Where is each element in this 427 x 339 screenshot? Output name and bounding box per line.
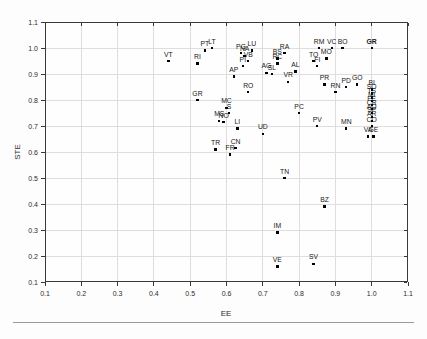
data-point-label: PD [342, 78, 351, 85]
x-tick-bottom [335, 282, 336, 286]
y-tick-label: 0.8 [14, 97, 38, 104]
data-point-marker [334, 91, 336, 93]
y-tick-left [41, 22, 45, 23]
data-point-marker [316, 125, 318, 127]
data-point-marker [345, 86, 347, 88]
data-point-marker [204, 49, 206, 51]
data-point-marker [316, 65, 318, 67]
x-tick-bottom [45, 282, 46, 286]
x-tick-bottom [299, 282, 300, 286]
scatter-figure: STE EE 0.10.20.30.40.50.60.70.80.91.01.1… [0, 0, 427, 339]
y-tick-left [41, 282, 45, 283]
data-point-label: BO [338, 39, 348, 46]
data-point-marker [236, 127, 238, 129]
data-point-marker [276, 265, 278, 267]
x-tick-bottom [371, 282, 372, 286]
x-tick-top [226, 23, 227, 26]
data-point-label: FR [226, 145, 235, 152]
y-tick-right [404, 282, 407, 283]
x-tick-top [262, 23, 263, 26]
data-point-label: VC [327, 39, 336, 46]
data-point-marker [234, 147, 236, 149]
y-tick-label: 0.2 [14, 253, 38, 260]
data-point-marker [211, 47, 213, 49]
data-point-label: GO [352, 75, 363, 82]
data-point-marker [196, 99, 198, 101]
data-point-marker [265, 72, 267, 74]
data-point-label: SV [309, 255, 318, 262]
x-tick-label: 0.5 [178, 290, 202, 297]
x-tick-bottom [408, 282, 409, 286]
data-point-marker [323, 83, 325, 85]
y-tick-right [404, 22, 407, 23]
y-tick-right [404, 256, 407, 257]
data-point-label: VT [164, 52, 173, 59]
y-tick-right [404, 100, 407, 101]
data-point-label: GE [369, 127, 379, 134]
x-tick-bottom [153, 282, 154, 286]
data-point-label: PR [320, 75, 329, 82]
data-point-marker [283, 52, 285, 54]
data-point-label: SL [268, 65, 276, 72]
data-point-label: UD [258, 125, 268, 132]
y-tick-right [404, 178, 407, 179]
data-point-marker [372, 135, 374, 137]
x-tick-label: 0.6 [215, 290, 239, 297]
x-tick-top [408, 23, 409, 26]
x-tick-label: 0.3 [106, 290, 130, 297]
data-point-label: RI [194, 54, 201, 61]
y-tick-right [404, 74, 407, 75]
data-point-marker [229, 153, 231, 155]
data-point-label: PV [313, 117, 322, 124]
data-point-label: RC [272, 54, 282, 61]
data-point-label: BZ [320, 197, 329, 204]
y-tick-right [404, 126, 407, 127]
data-point-marker [371, 47, 373, 49]
data-point-marker [271, 73, 273, 75]
y-tick-label: 0.7 [14, 123, 38, 130]
figure-bottom-separator [13, 322, 414, 323]
data-point-marker [345, 127, 347, 129]
y-tick-label: 0.3 [14, 227, 38, 234]
x-tick-bottom [226, 282, 227, 286]
data-point-marker [323, 205, 325, 207]
y-tick-left [41, 178, 45, 179]
x-tick-bottom [117, 282, 118, 286]
x-tick-label: 1.1 [396, 290, 420, 297]
y-tick-left [41, 100, 45, 101]
y-tick-left [41, 152, 45, 153]
data-point-marker [214, 148, 216, 150]
x-tick-bottom [81, 282, 82, 286]
data-point-marker [325, 57, 327, 59]
grid-line-horizontal [46, 178, 407, 179]
x-tick-top [335, 23, 336, 26]
y-tick-label: 0.9 [14, 71, 38, 78]
data-point-label: MN [341, 119, 352, 126]
x-tick-bottom [190, 282, 191, 286]
grid-line-horizontal [46, 204, 407, 205]
data-point-marker [276, 231, 278, 233]
data-point-label: TN [280, 169, 289, 176]
y-tick-right [404, 152, 407, 153]
x-tick-label: 0.8 [287, 290, 311, 297]
data-point-label: NO [218, 113, 228, 120]
x-tick-top [117, 23, 118, 26]
data-point-marker [242, 65, 244, 67]
y-tick-label: 0.5 [14, 175, 38, 182]
x-tick-label: 1.0 [360, 290, 384, 297]
x-tick-label: 0.1 [33, 290, 57, 297]
data-point-marker [287, 81, 289, 83]
data-point-marker [233, 75, 235, 77]
data-point-marker [283, 177, 285, 179]
y-tick-left [41, 256, 45, 257]
data-point-label: S [227, 104, 232, 111]
x-tick-top [81, 23, 82, 26]
data-point-label: AP [229, 67, 238, 74]
x-tick-label: 0.7 [251, 290, 275, 297]
data-point-marker [341, 47, 343, 49]
data-point-marker [247, 60, 249, 62]
data-point-label: MO [321, 49, 332, 56]
y-tick-left [41, 48, 45, 49]
data-point-label: IM [274, 223, 282, 230]
data-point-label: PI [240, 57, 246, 64]
